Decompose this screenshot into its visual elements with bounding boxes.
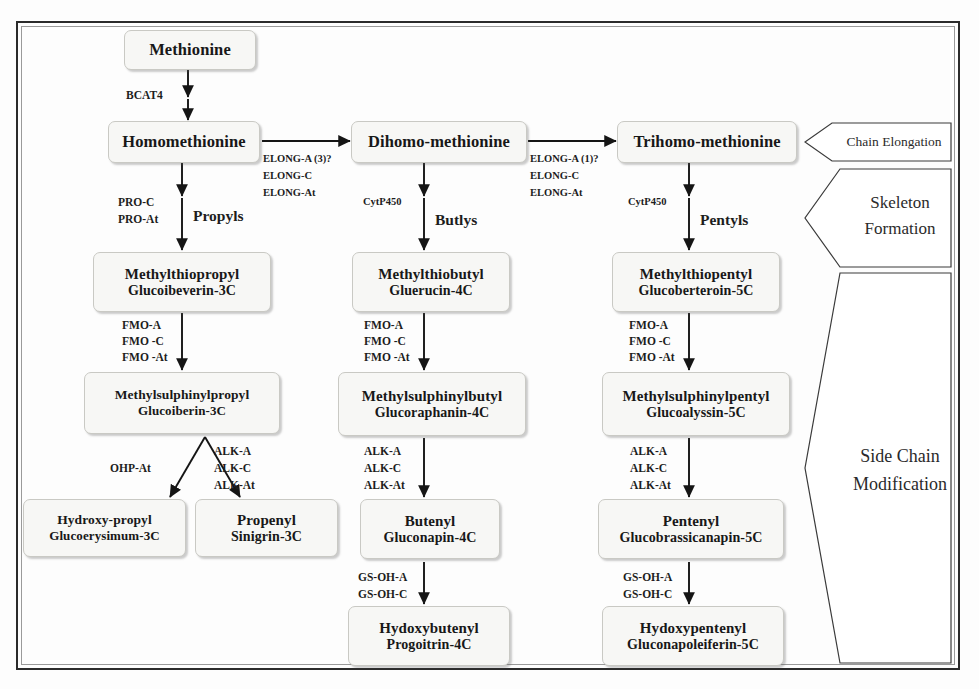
- enzyme-label-gs-oh-c-right: GS-OH-C: [623, 587, 672, 601]
- node-hydoxypentenyl-line1: Hydoxypentenyl: [640, 619, 746, 637]
- product-label-propyls: Propyls: [193, 207, 244, 226]
- node-methylsulphinylpentyl[interactable]: Methylsulphinylpentyl Glucoalyssin-5C: [602, 372, 790, 436]
- enzyme-label-alk-c-left: ALK-C: [214, 461, 251, 475]
- node-dihomo-methionine-line1: Dihomo-methionine: [368, 132, 510, 152]
- enzyme-label-fmo-at-left: FMO -At: [122, 350, 168, 364]
- enzyme-label-fmo-c-right: FMO -C: [629, 334, 671, 348]
- enzyme-label-alk-a-right: ALK-A: [630, 444, 667, 458]
- node-methylthiopentyl[interactable]: Methylthiopentyl Glucoberteroin-5C: [612, 252, 780, 312]
- node-hydroxy-propyl-line1: Hydroxy-propyl: [57, 512, 152, 528]
- enzyme-label-fmo-a-right: FMO-A: [629, 318, 668, 332]
- enzyme-label-elong-c-2: ELONG-C: [530, 170, 579, 183]
- node-methylthiopentyl-line1: Methylthiopentyl: [640, 265, 752, 283]
- enzyme-label-fmo-a-left: FMO-A: [122, 318, 161, 332]
- enzyme-label-pro-c: PRO-C: [118, 195, 154, 209]
- node-methylthiopropyl-line2: Glucoibeverin-3C: [128, 283, 236, 300]
- node-methylsulphinylpropyl[interactable]: Methylsulphinylpropyl Glucoiberin-3C: [84, 372, 280, 434]
- enzyme-label-elong-a-1: ELONG-A (1)?: [530, 153, 599, 166]
- enzyme-label-fmo-a-mid: FMO-A: [364, 318, 403, 332]
- node-propenyl-line1: Propenyl: [237, 511, 296, 529]
- banner-chain-elongation[interactable]: Chain Elongation: [804, 122, 952, 162]
- node-hydoxypentenyl[interactable]: Hydoxypentenyl Gluconapoleiferin-5C: [602, 606, 784, 666]
- node-methylsulphinylpentyl-line1: Methylsulphinylpentyl: [622, 387, 769, 405]
- node-hydoxybutenyl[interactable]: Hydoxybutenyl Progoitrin-4C: [348, 606, 510, 666]
- enzyme-label-gs-oh-c-mid: GS-OH-C: [358, 587, 407, 601]
- node-methylthiobutyl-line1: Methylthiobutyl: [378, 265, 484, 283]
- node-propenyl[interactable]: Propenyl Sinigrin-3C: [195, 499, 338, 557]
- enzyme-label-alk-at-mid: ALK-At: [364, 478, 405, 492]
- enzyme-label-alk-a-left: ALK-A: [214, 444, 251, 458]
- enzyme-label-bcat4: BCAT4: [126, 88, 163, 102]
- node-butenyl-line1: Butenyl: [405, 512, 456, 530]
- banner-skeleton-formation[interactable]: Skeleton Formation: [804, 168, 952, 268]
- enzyme-label-alk-a-mid: ALK-A: [364, 444, 401, 458]
- node-hydoxybutenyl-line1: Hydoxybutenyl: [379, 619, 479, 637]
- enzyme-label-cytp450-right: CytP450: [628, 196, 667, 209]
- enzyme-label-elong-c-1: ELONG-C: [263, 170, 312, 183]
- node-methylsulphinylpropyl-line1: Methylsulphinylpropyl: [115, 387, 250, 403]
- node-methionine-line1: Methionine: [149, 40, 231, 60]
- node-methylsulphinylpentyl-line2: Glucoalyssin-5C: [646, 405, 746, 422]
- node-butenyl-line2: Gluconapin-4C: [383, 530, 476, 547]
- enzyme-label-elong-at-2: ELONG-At: [530, 187, 583, 200]
- node-trihomo-methionine-line1: Trihomo-methionine: [633, 132, 780, 152]
- product-label-pentyls: Pentyls: [700, 211, 748, 230]
- node-methylsulphinylpropyl-line2: Glucoiberin-3C: [138, 403, 226, 419]
- enzyme-label-cytp450-mid: CytP450: [363, 196, 402, 209]
- banner-skeleton-formation-line1: Skeleton: [804, 192, 974, 215]
- node-methylsulphinylbutyl-line1: Methylsulphinylbutyl: [362, 387, 502, 405]
- node-hydoxypentenyl-line2: Gluconapoleiferin-5C: [627, 637, 759, 654]
- enzyme-label-fmo-c-mid: FMO -C: [364, 334, 406, 348]
- node-methylthiopropyl[interactable]: Methylthiopropyl Glucoibeverin-3C: [93, 252, 271, 312]
- enzyme-label-elong-at-1: ELONG-At: [263, 187, 316, 200]
- node-butenyl[interactable]: Butenyl Gluconapin-4C: [360, 499, 500, 559]
- enzyme-label-ohp-at: OHP-At: [110, 461, 151, 475]
- enzyme-label-fmo-at-right: FMO -At: [629, 350, 675, 364]
- enzyme-label-fmo-at-mid: FMO -At: [364, 350, 410, 364]
- enzyme-label-elong-a-3: ELONG-A (3)?: [263, 153, 332, 166]
- banner-chain-elongation-label: Chain Elongation: [804, 133, 968, 151]
- enzyme-label-gs-oh-a-mid: GS-OH-A: [358, 570, 407, 584]
- enzyme-label-alk-at-right: ALK-At: [630, 478, 671, 492]
- banner-skeleton-formation-line2: Formation: [804, 218, 974, 241]
- node-homomethionine[interactable]: Homomethionine: [108, 121, 260, 163]
- node-hydoxybutenyl-line2: Progoitrin-4C: [386, 637, 471, 654]
- node-methylthiopentyl-line2: Glucoberteroin-5C: [639, 283, 754, 300]
- node-methylthiobutyl-line2: Gluerucin-4C: [389, 283, 473, 300]
- product-label-butlys: Butlys: [435, 211, 477, 230]
- enzyme-label-fmo-c-left: FMO -C: [122, 334, 164, 348]
- node-dihomo-methionine[interactable]: Dihomo-methionine: [351, 121, 527, 163]
- pathway-diagram-canvas: Methionine Homomethionine Dihomo-methion…: [0, 0, 979, 689]
- node-methylthiobutyl[interactable]: Methylthiobutyl Gluerucin-4C: [352, 252, 510, 312]
- node-hydroxy-propyl-line2: Glucoerysimum-3C: [49, 528, 160, 544]
- enzyme-label-alk-at-left: ALK-At: [214, 478, 255, 492]
- node-homomethionine-line1: Homomethionine: [122, 132, 245, 152]
- banner-side-chain-modification-line2: Modification: [804, 472, 974, 496]
- banner-side-chain-modification[interactable]: Side Chain Modification: [804, 272, 952, 664]
- enzyme-label-pro-at: PRO-At: [118, 212, 158, 226]
- node-methylthiopropyl-line1: Methylthiopropyl: [125, 265, 240, 283]
- node-hydroxy-propyl[interactable]: Hydroxy-propyl Glucoerysimum-3C: [23, 499, 186, 557]
- enzyme-label-alk-c-right: ALK-C: [630, 461, 667, 475]
- node-trihomo-methionine[interactable]: Trihomo-methionine: [617, 121, 797, 163]
- node-pentenyl-line2: Glucobrassicanapin-5C: [620, 530, 763, 547]
- banner-side-chain-modification-line1: Side Chain: [804, 444, 974, 468]
- node-propenyl-line2: Sinigrin-3C: [231, 529, 302, 546]
- enzyme-label-gs-oh-a-right: GS-OH-A: [623, 570, 672, 584]
- node-methylsulphinylbutyl-line2: Glucoraphanin-4C: [375, 405, 489, 422]
- enzyme-label-alk-c-mid: ALK-C: [364, 461, 401, 475]
- node-pentenyl[interactable]: Pentenyl Glucobrassicanapin-5C: [598, 499, 784, 559]
- node-methylsulphinylbutyl[interactable]: Methylsulphinylbutyl Glucoraphanin-4C: [338, 372, 526, 436]
- node-pentenyl-line1: Pentenyl: [663, 512, 720, 530]
- node-methionine[interactable]: Methionine: [124, 30, 256, 70]
